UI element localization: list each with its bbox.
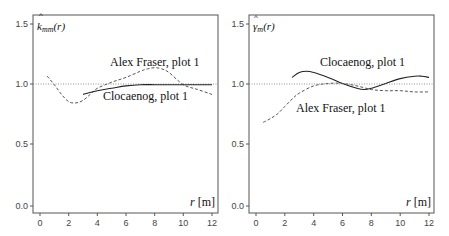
- y-tick-label: 1.5: [231, 19, 244, 29]
- annotation-clocaenog: Clocaenog, plot 1: [320, 55, 405, 69]
- left-panel: 1.5 1.0 0.5 0.0 0 2 4 6 8 10 12 kmm(r) ^…: [15, 11, 218, 228]
- y-axis: 1.5 1.0 0.5 0.0: [15, 19, 33, 211]
- hat-accent: ^: [254, 13, 258, 22]
- hat-accent: ^: [39, 11, 43, 20]
- x-axis: 0 2 4 6 8 10 12: [253, 213, 434, 228]
- annotation-alex-fraser: Alex Fraser, plot 1: [110, 55, 200, 69]
- x-tick-label: 0: [253, 218, 258, 228]
- x-tick-label: 10: [395, 218, 405, 228]
- y-tick-label: 1.5: [15, 19, 28, 29]
- figure: 1.5 1.0 0.5 0.0 0 2 4 6 8 10 12 kmm(r) ^…: [0, 0, 449, 236]
- x-tick-label: 8: [369, 218, 374, 228]
- y-axis-label: kmm(r): [37, 20, 65, 34]
- x-tick-label: 6: [340, 218, 345, 228]
- annotation-clocaenog: Clocaenog, plot 1: [103, 89, 188, 103]
- annotation-alex-fraser: Alex Fraser, plot 1: [296, 101, 386, 115]
- x-tick-label: 6: [123, 218, 128, 228]
- y-tick-label: 0.0: [15, 201, 28, 211]
- x-axis: 0 2 4 6 8 10 12: [37, 213, 217, 228]
- x-tick-label: 4: [95, 218, 100, 228]
- x-tick-label: 4: [311, 218, 316, 228]
- x-axis-label: r [m]: [190, 195, 215, 209]
- y-axis: 1.5 1.0 0.5 0.0: [231, 19, 249, 211]
- right-panel: 1.5 1.0 0.5 0.0 0 2 4 6 8 10 12 γm(r) ^ …: [231, 13, 434, 228]
- plot-frame: [33, 15, 218, 213]
- x-tick-label: 10: [178, 218, 188, 228]
- x-tick-label: 2: [66, 218, 71, 228]
- y-tick-label: 0.5: [15, 139, 28, 149]
- y-tick-label: 0.5: [231, 139, 244, 149]
- y-tick-label: 1.0: [15, 79, 28, 89]
- x-axis-label: r [m]: [406, 195, 431, 209]
- y-axis-label: γm(r): [253, 20, 275, 34]
- x-tick-label: 0: [37, 218, 42, 228]
- x-tick-label: 8: [152, 218, 157, 228]
- y-tick-label: 0.0: [231, 201, 244, 211]
- x-tick-label: 2: [282, 218, 287, 228]
- x-tick-label: 12: [424, 218, 434, 228]
- x-tick-label: 12: [207, 218, 217, 228]
- y-tick-label: 1.0: [231, 79, 244, 89]
